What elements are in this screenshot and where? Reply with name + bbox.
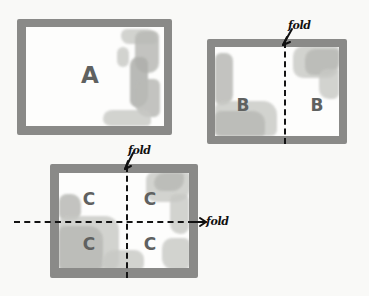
panel-c-letter-top-left: C bbox=[79, 191, 99, 208]
panel-b-letter-right: B bbox=[307, 97, 327, 114]
panel-c-letter-bottom-right: C bbox=[140, 236, 160, 253]
panel-c-fold-label-top: fold bbox=[128, 144, 151, 157]
panel-c-fold-label-right: fold bbox=[206, 215, 229, 228]
panel-b-fold-label: fold bbox=[288, 19, 311, 32]
panel-a-smudge-6 bbox=[117, 47, 129, 67]
panel-a-letter: A bbox=[77, 64, 103, 87]
panel-c-smudge-bottomright bbox=[162, 238, 190, 270]
panel-c-fold-line-horizontal bbox=[14, 221, 194, 223]
panel-b-smudge-left bbox=[215, 53, 233, 105]
panel-c-smudge-topright-2 bbox=[154, 173, 184, 191]
diagram-canvas: A B B fold bbox=[0, 0, 369, 296]
panel-c-smudge-bottom bbox=[102, 250, 144, 270]
panel-c-letter-bottom-left: C bbox=[79, 236, 99, 253]
panel-c-letter-top-right: C bbox=[140, 191, 160, 208]
panel-b-letter-left: B bbox=[233, 97, 253, 114]
panel-b-paper: B B bbox=[207, 39, 347, 144]
panel-c-smudge-right bbox=[170, 194, 189, 234]
panel-a-smudge-5 bbox=[103, 110, 151, 126]
panel-b-fold-line-vertical bbox=[284, 42, 286, 144]
panel-a-paper: A bbox=[17, 19, 172, 135]
